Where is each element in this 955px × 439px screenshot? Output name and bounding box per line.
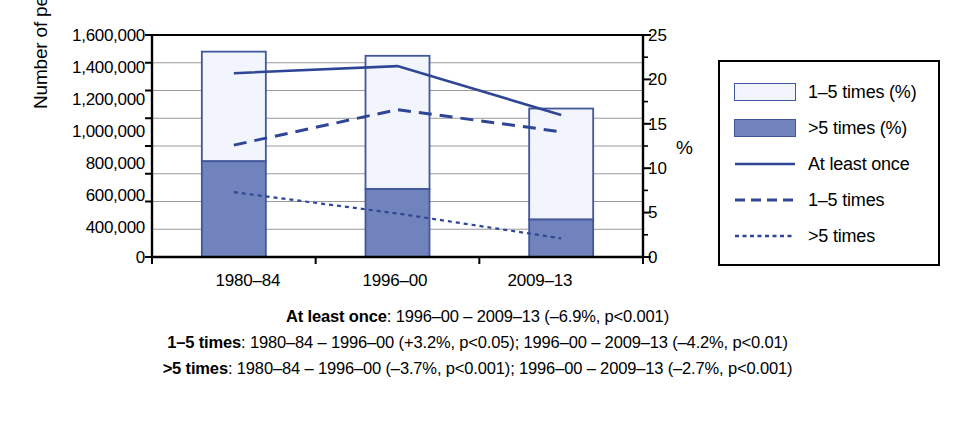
- legend-item-label: 1–5 times: [808, 190, 884, 211]
- legend-line-solid-icon: [734, 155, 796, 173]
- caption-series-name: 1–5 times: [167, 333, 241, 351]
- bar-group: [202, 52, 593, 257]
- chart-legend: 1–5 times (%) >5 times (%) At least once…: [718, 60, 940, 266]
- chart-figure: Number of people % 1,600,000 1,400,000 1…: [0, 0, 955, 300]
- legend-swatch-open-icon: [734, 83, 796, 101]
- legend-item-1-5-times-pct[interactable]: 1–5 times (%): [720, 74, 938, 110]
- legend-item-label: 1–5 times (%): [808, 82, 916, 103]
- legend-swatch-filled-icon: [734, 119, 796, 137]
- legend-item-gt5-times-line[interactable]: >5 times: [720, 218, 938, 254]
- caption-series-name: At least once: [286, 307, 387, 325]
- legend-item-label: At least once: [808, 154, 909, 175]
- legend-line-dotted-icon: [734, 227, 796, 245]
- caption-series-detail: : 1980–84 – 1996–00 (–3.7%, p<0.001); 19…: [228, 359, 792, 377]
- legend-item-label: >5 times: [808, 226, 875, 247]
- legend-item-at-least-once[interactable]: At least once: [720, 146, 938, 182]
- chart-page: Number of people % 1,600,000 1,400,000 1…: [0, 0, 955, 439]
- legend-item-label: >5 times (%): [808, 118, 907, 139]
- legend-line-dashed-icon: [734, 191, 796, 209]
- caption-line: 1–5 times: 1980–84 – 1996–00 (+3.2%, p<0…: [0, 329, 955, 355]
- caption-line: At least once: 1996–00 – 2009–13 (–6.9%,…: [0, 303, 955, 329]
- caption-series-detail: : 1980–84 – 1996–00 (+3.2%, p<0.05); 199…: [241, 333, 788, 351]
- caption-line: >5 times: 1980–84 – 1996–00 (–3.7%, p<0.…: [0, 355, 955, 381]
- legend-item-1-5-times-line[interactable]: 1–5 times: [720, 182, 938, 218]
- chart-caption: At least once: 1996–00 – 2009–13 (–6.9%,…: [0, 303, 955, 381]
- legend-item-gt5-times-pct[interactable]: >5 times (%): [720, 110, 938, 146]
- caption-series-detail: : 1996–00 – 2009–13 (–6.9%, p<0.001): [387, 307, 669, 325]
- caption-series-name: >5 times: [163, 359, 228, 377]
